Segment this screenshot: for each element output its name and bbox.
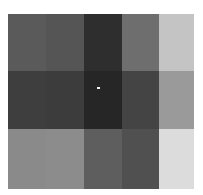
tile-r2-c4 xyxy=(122,71,159,129)
tile-r1-c3 xyxy=(84,14,122,71)
tile-r2-c2 xyxy=(46,71,84,129)
tile-r2-c3 xyxy=(84,71,122,129)
tile-r2-c1 xyxy=(8,71,46,129)
tile-r1-c5 xyxy=(159,14,194,71)
tile-r1-c1 xyxy=(8,14,46,71)
tile-r1-c2 xyxy=(46,14,84,71)
tile-r3-c1 xyxy=(8,129,46,189)
tile-r3-c2 xyxy=(46,129,84,189)
grayscale-tile-grid xyxy=(8,14,194,189)
tile-r2-c5 xyxy=(159,71,194,129)
tile-r1-c4 xyxy=(122,14,159,71)
tile-r3-c3 xyxy=(84,129,122,189)
center-marker xyxy=(97,87,100,89)
tile-r3-c4 xyxy=(122,129,159,189)
tile-r3-c5 xyxy=(159,129,194,189)
